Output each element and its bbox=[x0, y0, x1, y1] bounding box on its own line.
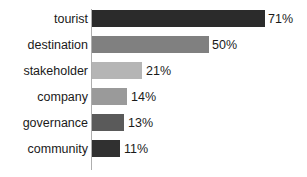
bar-row: community 11% bbox=[0, 139, 307, 165]
plot-area: tourist 71% destination 50% stakeholder … bbox=[0, 9, 307, 177]
bar-row: company 14% bbox=[0, 87, 307, 113]
value-label: 14% bbox=[131, 89, 156, 105]
bar-row: destination 50% bbox=[0, 35, 307, 61]
value-label: 50% bbox=[212, 37, 237, 53]
category-label: destination bbox=[2, 37, 88, 53]
bar-governance[interactable] bbox=[92, 114, 124, 131]
bar-stakeholder[interactable] bbox=[92, 62, 142, 79]
bar-company[interactable] bbox=[92, 88, 127, 105]
bar-row: governance 13% bbox=[0, 113, 307, 139]
bar-chart: tourist 71% destination 50% stakeholder … bbox=[0, 0, 307, 177]
value-label: 13% bbox=[128, 115, 153, 131]
value-label: 71% bbox=[268, 11, 293, 27]
category-label: governance bbox=[2, 115, 88, 131]
value-label: 21% bbox=[146, 63, 171, 79]
category-label: stakeholder bbox=[2, 63, 88, 79]
bar-row: stakeholder 21% bbox=[0, 61, 307, 87]
bar-row: tourist 71% bbox=[0, 9, 307, 35]
bar-community[interactable] bbox=[92, 140, 120, 157]
chart-title bbox=[0, 0, 307, 3]
category-label: community bbox=[2, 141, 88, 157]
category-label: company bbox=[2, 89, 88, 105]
bar-destination[interactable] bbox=[92, 36, 209, 53]
category-label: tourist bbox=[2, 11, 88, 27]
value-label: 11% bbox=[124, 141, 148, 157]
bar-tourist[interactable] bbox=[92, 10, 265, 27]
